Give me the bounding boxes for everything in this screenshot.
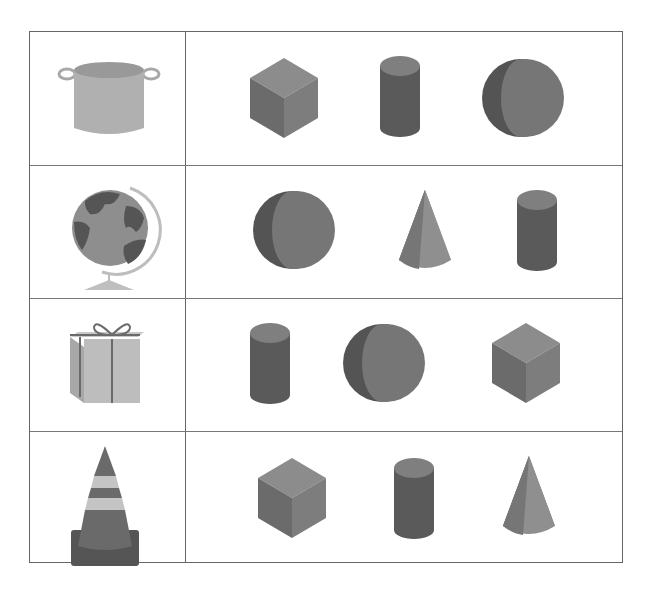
- worksheet-row-1: [30, 32, 622, 166]
- shape-options: [186, 432, 622, 563]
- object-cell: [30, 299, 186, 431]
- cylinder-icon[interactable]: [270, 363, 271, 364]
- worksheet-row-2: [30, 166, 622, 299]
- shape-options: [186, 32, 622, 165]
- object-cell: [30, 32, 186, 165]
- cylinder-icon[interactable]: [414, 498, 415, 499]
- pot-icon: [54, 60, 164, 140]
- sphere-icon[interactable]: [382, 363, 383, 364]
- cube-icon[interactable]: [284, 98, 285, 99]
- cone-icon[interactable]: [425, 230, 426, 231]
- sphere-icon[interactable]: [521, 98, 522, 99]
- gift-box-icon: [68, 321, 148, 411]
- matching-worksheet: [29, 31, 623, 563]
- globe-icon: [60, 176, 160, 296]
- cylinder-icon[interactable]: [400, 96, 401, 97]
- sphere-icon[interactable]: [292, 230, 293, 231]
- worksheet-row-4: [30, 432, 622, 563]
- cylinder-icon[interactable]: [537, 230, 538, 231]
- cone-icon[interactable]: [529, 496, 530, 497]
- worksheet-row-3: [30, 299, 622, 432]
- object-cell: [30, 166, 186, 298]
- shape-options: [186, 299, 622, 431]
- cube-icon[interactable]: [292, 498, 293, 499]
- cube-icon[interactable]: [526, 363, 527, 364]
- object-cell: [30, 432, 186, 563]
- traffic-cone-icon: [70, 446, 140, 556]
- shape-options: [186, 166, 622, 298]
